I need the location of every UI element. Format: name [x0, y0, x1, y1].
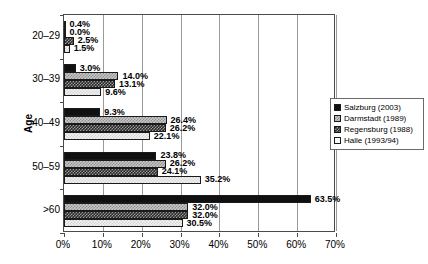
y-axis-category-label: >60	[4, 204, 60, 215]
y-axis-category-labels: 20–2930–3940–4950–59>60	[0, 14, 60, 232]
x-axis-tick-mark	[103, 233, 104, 237]
bar-value-label: 63.5%	[315, 195, 341, 204]
legend-item[interactable]: Regensburg (1988)	[334, 124, 421, 134]
bar-chart: Age 20–2930–3940–4950–59>60 0.4%0.0%2.5%…	[0, 0, 428, 264]
bar	[64, 203, 188, 211]
x-axis-tick-mark	[181, 233, 182, 237]
bar	[64, 64, 76, 72]
bar-value-label: 30.5%	[187, 219, 213, 228]
x-axis-tick-label: 20%	[121, 239, 161, 250]
legend-item-label: Darmstadt (1989)	[344, 114, 406, 123]
y-axis-tick-mark	[60, 146, 64, 147]
legend-swatch-icon	[334, 115, 341, 122]
bar	[64, 45, 70, 53]
x-axis-tick-label: 10%	[82, 239, 122, 250]
legend-swatch-icon	[334, 104, 341, 111]
legend-swatch-icon	[334, 126, 341, 133]
x-axis-tick-mark	[142, 233, 143, 237]
bar-value-label: 22.1%	[154, 132, 180, 141]
x-axis-tick-label: 70%	[315, 239, 355, 250]
y-axis-category-label: 30–39	[4, 73, 60, 84]
bar	[64, 176, 201, 184]
bar	[64, 168, 158, 176]
x-axis-tick-label: 50%	[237, 239, 277, 250]
y-axis-tick-mark	[60, 15, 64, 16]
y-axis-category-label: 40–49	[4, 117, 60, 128]
y-axis-tick-mark	[60, 59, 64, 60]
bar	[64, 219, 183, 227]
bar	[64, 37, 74, 45]
bar	[64, 195, 311, 203]
x-axis-tick-label: 30%	[160, 239, 200, 250]
bar	[64, 21, 66, 29]
bar	[64, 29, 66, 37]
x-axis-tick-mark	[297, 233, 298, 237]
legend-item-label: Regensburg (1988)	[344, 125, 413, 134]
x-axis-tick-label: 0%	[43, 239, 83, 250]
x-axis-tick-mark	[219, 233, 220, 237]
bar	[64, 108, 100, 116]
legend-item[interactable]: Halle (1993/94)	[334, 135, 421, 145]
bar	[64, 160, 166, 168]
bar	[64, 211, 188, 219]
bar	[64, 152, 156, 160]
y-axis-tick-mark	[60, 233, 64, 234]
bar	[64, 72, 118, 80]
bar-value-label: 1.5%	[74, 44, 95, 53]
bar-value-label: 35.2%	[205, 175, 231, 184]
bar	[64, 116, 167, 124]
legend-item-label: Salzburg (2003)	[344, 103, 401, 112]
x-axis-tick-label: 40%	[198, 239, 238, 250]
y-axis-tick-mark	[60, 102, 64, 103]
legend-swatch-icon	[334, 137, 341, 144]
x-axis-tick-label: 60%	[276, 239, 316, 250]
y-axis-tick-mark	[60, 189, 64, 190]
plot-area: 0.4%0.0%2.5%1.5%3.0%14.0%13.1%9.6%9.3%26…	[63, 14, 335, 232]
legend-item[interactable]: Salzburg (2003)	[334, 102, 421, 112]
x-axis-tick-mark	[336, 233, 337, 237]
legend-item[interactable]: Darmstadt (1989)	[334, 113, 421, 123]
bar	[64, 88, 101, 96]
legend: Salzburg (2003)Darmstadt (1989)Regensbur…	[330, 98, 424, 150]
bar	[64, 124, 166, 132]
x-axis-tick-mark	[258, 233, 259, 237]
x-axis-tick-mark	[64, 233, 65, 237]
y-axis-category-label: 20–29	[4, 30, 60, 41]
legend-item-label: Halle (1993/94)	[344, 136, 399, 145]
y-axis-category-label: 50–59	[4, 161, 60, 172]
bar-value-label: 9.6%	[105, 88, 126, 97]
bar	[64, 132, 150, 140]
